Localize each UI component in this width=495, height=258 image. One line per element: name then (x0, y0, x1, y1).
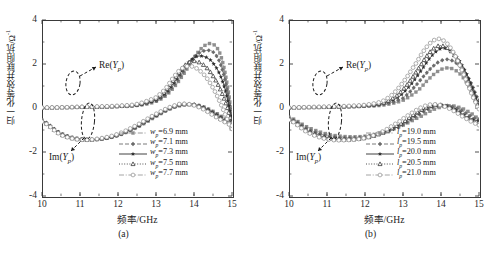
legend-key-diamond-filled-icon (118, 139, 148, 149)
figure-container: 420-2-4101112131415归一化等效并联阻抗/Ω-1频率/GHz(a… (0, 0, 495, 258)
panel-a: 420-2-4101112131415归一化等效并联阻抗/Ω-1频率/GHz(a… (0, 0, 247, 258)
legend-key-triangle-open-icon (365, 159, 395, 169)
y-tick-label: 4 (268, 14, 284, 24)
legend: wp=6.9 mmwp=7.1 mmwp=7.3 mmwp=7.5 mmwp=7… (118, 128, 188, 180)
legend-item[interactable]: lp=21.0 mm (365, 170, 436, 180)
panel-caption: (a) (0, 228, 247, 239)
y-tick-label: 0 (21, 102, 37, 112)
legend-key-star-icon (365, 149, 395, 159)
panel-caption: (b) (247, 228, 494, 239)
im-annotation-label: Im(Yp) (49, 152, 74, 164)
y-tick-label: -2 (268, 146, 284, 156)
x-tick-label: 14 (184, 199, 204, 209)
legend-label: lp=21.0 mm (397, 168, 436, 181)
y-tick-label: 0 (268, 102, 284, 112)
legend-key-diamond-filled-icon (365, 139, 395, 149)
re-annotation-label: Re(Yp) (346, 60, 371, 72)
im-annotation-label: Im(Yp) (296, 152, 321, 164)
legend-key-star-icon (118, 149, 148, 159)
panel-b: 420-2-4101112131415归一化等效并联阻抗/Ω-1频率/GHz(b… (247, 0, 494, 258)
legend-item[interactable]: wp=7.7 mm (118, 170, 188, 180)
legend-key-square-filled-icon (118, 128, 148, 138)
y-tick-label: 2 (268, 58, 284, 68)
y-axis-label: 归一化等效并联阻抗/Ω-1 (5, 30, 18, 125)
x-tick-label: 13 (393, 199, 413, 209)
y-tick-label: -2 (21, 146, 37, 156)
x-axis-label: 频率/GHz (289, 212, 479, 226)
y-tick-label: 4 (21, 14, 37, 24)
legend-label: wp=7.7 mm (150, 168, 188, 181)
x-tick-label: 12 (355, 199, 375, 209)
legend-key-square-filled-icon (365, 128, 395, 138)
legend-key-circle-open-icon (365, 170, 395, 180)
re-annotation-label: Re(Yp) (99, 60, 124, 72)
x-tick-label: 15 (469, 199, 489, 209)
x-tick-label: 12 (108, 199, 128, 209)
x-tick-label: 10 (32, 199, 52, 209)
legend: lp=19.0 mmlp=19.5 mmlp=20.0 mmlp=20.5 mm… (365, 128, 436, 180)
x-tick-label: 15 (222, 199, 242, 209)
x-tick-label: 10 (279, 199, 299, 209)
legend-key-circle-open-icon (118, 170, 148, 180)
y-tick-label: 2 (21, 58, 37, 68)
x-tick-label: 14 (431, 199, 451, 209)
x-tick-label: 13 (146, 199, 166, 209)
x-tick-label: 11 (70, 199, 90, 209)
y-axis-label: 归一化等效并联阻抗/Ω-1 (252, 30, 265, 125)
x-axis-label: 频率/GHz (42, 212, 232, 226)
legend-key-triangle-open-icon (118, 159, 148, 169)
x-tick-label: 11 (317, 199, 337, 209)
